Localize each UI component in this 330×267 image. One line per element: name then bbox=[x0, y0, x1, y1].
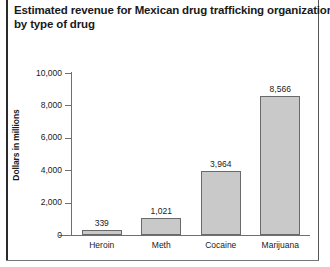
chart-title-line-2: by type of drug bbox=[14, 18, 314, 32]
frame-right-rule bbox=[318, 0, 319, 261]
bar bbox=[201, 171, 241, 235]
bar-value-label: 3,964 bbox=[189, 160, 253, 169]
x-axis-line bbox=[59, 235, 310, 236]
y-axis-tick-label: 2,000 bbox=[2, 198, 62, 207]
y-axis-tick-label: 0 bbox=[2, 231, 62, 240]
y-axis-tick-label: 4,000 bbox=[2, 166, 62, 175]
y-axis-tick bbox=[65, 170, 71, 171]
bar bbox=[260, 96, 300, 235]
y-axis-tick-label: 10,000 bbox=[2, 69, 62, 78]
y-axis-tick-label: 8,000 bbox=[2, 101, 62, 110]
y-axis-tick bbox=[65, 203, 71, 204]
chart-figure: Estimated revenue for Mexican drug traff… bbox=[0, 0, 330, 267]
bar-value-label: 339 bbox=[70, 219, 134, 228]
y-axis-tick bbox=[65, 73, 71, 74]
y-axis-tick-label: 6,000 bbox=[2, 133, 62, 142]
frame-bottom-rule bbox=[6, 260, 319, 261]
frame-left-rule bbox=[6, 0, 8, 261]
bar-value-label: 1,021 bbox=[129, 207, 193, 216]
bar-value-label: 8,566 bbox=[248, 85, 312, 94]
x-axis-category-label: Marijuana bbox=[245, 240, 315, 250]
y-axis-tick bbox=[65, 138, 71, 139]
y-axis-line bbox=[71, 72, 72, 236]
bar bbox=[141, 218, 181, 235]
bar bbox=[82, 230, 122, 235]
y-axis-tick bbox=[65, 105, 71, 106]
chart-title: Estimated revenue for Mexican drug traff… bbox=[14, 4, 314, 31]
y-axis-tick bbox=[65, 235, 71, 236]
chart-title-line-1: Estimated revenue for Mexican drug traff… bbox=[14, 4, 314, 18]
